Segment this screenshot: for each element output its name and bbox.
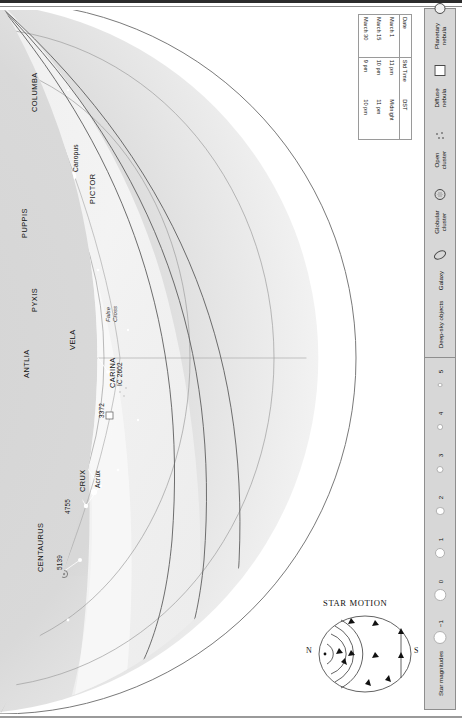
- page-gutter-top: [0, 0, 462, 3]
- constellation-label: PUPPIS: [20, 208, 29, 238]
- constellation-label: COLUMBA: [30, 72, 39, 112]
- star-label: Canopus: [72, 144, 79, 172]
- table-cell: 10 pm: [372, 57, 385, 97]
- magnitude-dot: [434, 589, 446, 601]
- table-row: March 1510 pm11 pm: [372, 15, 385, 139]
- table-cell: 10 pm: [359, 97, 372, 139]
- magnitude-legend-title: Star magnitudes: [437, 637, 444, 711]
- star-label: Acrux: [94, 470, 101, 488]
- deep-sky-label: 5139: [56, 555, 63, 570]
- magnitude-dot: [434, 631, 447, 644]
- constellation-label: ANTLIA: [22, 349, 31, 378]
- col-header-std-time: Std Time: [400, 57, 412, 97]
- star-motion-south-label: S: [414, 646, 418, 655]
- col-header-dst: DST: [400, 97, 412, 139]
- deep-sky-label: 4755: [64, 499, 71, 514]
- table-cell: 11 pm: [372, 97, 385, 139]
- star-motion-north-label: N: [306, 646, 312, 655]
- star-motion-diagram: STAR MOTION N S: [305, 596, 425, 706]
- legend-rail: Deep-sky objectsGalaxyGlobularclusterOpe…: [424, 8, 456, 710]
- constellation-label: VELA: [68, 329, 77, 350]
- magnitude-dot: [436, 507, 445, 516]
- magnitude-dot: [435, 548, 445, 558]
- table-cell: 9 pm: [359, 57, 372, 97]
- star-motion-graphic: [305, 596, 425, 706]
- col-header-date: Date: [400, 15, 412, 57]
- table-cell: March 30: [359, 15, 372, 57]
- table-row: March 309 pm10 pm: [359, 15, 372, 139]
- star-chart-page: ERIDANUSORIONLEPUSCOLUMBAMONOCEROSCANISM…: [0, 0, 462, 720]
- ngc3372-diffuse-nebula: [106, 412, 113, 419]
- table-row: March 111 pmMidnight: [386, 15, 400, 139]
- star-motion-title: STAR MOTION: [323, 598, 387, 608]
- date-time-legend: Date Std Time DST March 111 pmMidnightMa…: [358, 14, 412, 140]
- table-header-row: Date Std Time DST: [400, 15, 412, 139]
- magnitude-legend: Star magnitudes−1012345: [425, 358, 455, 708]
- table-cell: March 1: [386, 15, 400, 57]
- table-cell: March 15: [372, 15, 385, 57]
- constellation-label: PYXIS: [30, 288, 39, 312]
- page-gutter-bottom: [0, 716, 462, 718]
- date-time-table: Date Std Time DST March 111 pmMidnightMa…: [359, 15, 411, 139]
- page-gutter-top-hairline: [0, 6, 462, 7]
- constellation-label: CRUX: [78, 469, 87, 492]
- table-cell: 11 pm: [386, 57, 400, 97]
- magnitude-dot: [437, 466, 444, 473]
- table-cell: Midnight: [386, 97, 400, 139]
- constellation-label: PICTOR: [88, 174, 97, 205]
- asterism-label: FalseCross: [104, 306, 118, 322]
- magnitude-dot: [437, 424, 443, 430]
- deep-sky-legend: Deep-sky objectsGalaxyGlobularclusterOpe…: [425, 9, 455, 358]
- constellation-label: CENTAURUS: [36, 523, 45, 573]
- deep-sky-label: 3372: [98, 403, 105, 418]
- magnitude-dot: [438, 383, 443, 388]
- magnitude-value-label: 5: [437, 358, 444, 386]
- deep-sky-label: IC 2602: [116, 362, 123, 386]
- planetary-nebula-icon: [435, 3, 446, 14]
